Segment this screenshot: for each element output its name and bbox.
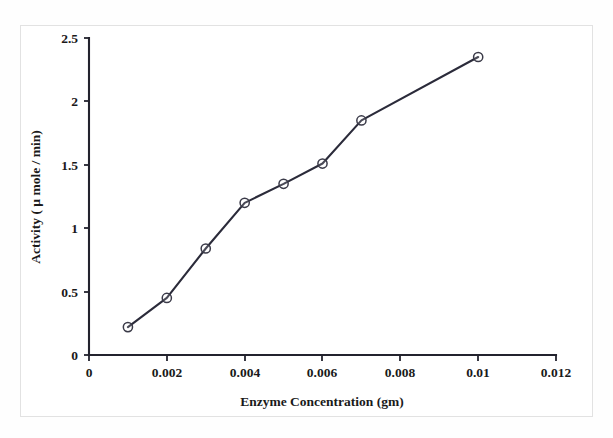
y-tick-label-4: 2 <box>71 94 78 109</box>
y-tick-label-3: 1.5 <box>61 158 78 173</box>
x-tick-label-3: 0.006 <box>307 365 338 380</box>
y-tick-label-1: 0.5 <box>61 285 78 300</box>
x-tick-label-2: 0.004 <box>230 365 261 380</box>
cut-off-caption-fragment: — <box>0 425 613 438</box>
x-tick-label-1: 0.002 <box>152 365 183 380</box>
series-line-activity <box>128 57 478 327</box>
x-tick-label-0: 0 <box>86 365 93 380</box>
y-tick-label-0: 0 <box>71 348 78 363</box>
data-series-activity <box>123 52 482 331</box>
data-point-marker <box>318 159 327 168</box>
data-point-marker <box>123 323 132 332</box>
y-axis-tick-labels: 0 0.5 1 1.5 2 2.5 <box>61 31 78 363</box>
x-tick-label-6: 0.012 <box>541 365 572 380</box>
y-tick-label-2: 1 <box>71 221 78 236</box>
x-axis-tick-labels: 0 0.002 0.004 0.006 0.008 0.01 0.012 <box>86 365 572 380</box>
data-point-marker <box>240 198 249 207</box>
data-point-marker <box>162 293 171 302</box>
data-point-marker <box>357 116 366 125</box>
y-tick-label-5: 2.5 <box>61 31 78 46</box>
series-markers <box>123 52 482 331</box>
cut-off-caption-text: — <box>0 425 613 431</box>
data-point-marker <box>474 52 483 61</box>
x-axis-title: Enzyme Concentration (gm) <box>240 394 403 409</box>
x-tick-label-5: 0.01 <box>466 365 490 380</box>
x-tick-label-4: 0.008 <box>385 365 416 380</box>
data-point-marker <box>201 244 210 253</box>
line-chart: 0 0.5 1 1.5 2 2.5 0 0.002 0.004 0.006 0.… <box>0 0 613 438</box>
y-axis-title: Activity ( µ mole / min) <box>28 130 43 263</box>
data-point-marker <box>279 179 288 188</box>
page-canvas: 0 0.5 1 1.5 2 2.5 0 0.002 0.004 0.006 0.… <box>0 0 613 438</box>
